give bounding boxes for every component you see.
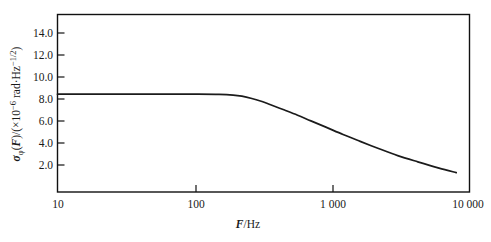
y-tick-label-14: 14.0 xyxy=(33,27,53,39)
y-tick-label-4: 4.0 xyxy=(39,137,54,149)
y-tick-label-8: 8.0 xyxy=(39,93,54,105)
x-axis-ticks xyxy=(196,185,333,192)
chart-page: 14.0 12.0 10.0 8.0 6.0 4.0 2.0 10 100 1 … xyxy=(0,0,491,242)
y-tick-label-10: 10.0 xyxy=(33,71,53,83)
y-axis-title-exp-b: −1/2 xyxy=(8,50,18,66)
y-axis-title: σφ(F)/(×10−6 rad·Hz−1/2) xyxy=(8,46,25,161)
y-axis-title-var: F xyxy=(10,138,22,147)
y-axis-tick-labels: 14.0 12.0 10.0 8.0 6.0 4.0 2.0 xyxy=(33,27,53,171)
phase-noise-chart: 14.0 12.0 10.0 8.0 6.0 4.0 2.0 10 100 1 … xyxy=(0,0,491,242)
data-series-curve xyxy=(58,94,457,173)
y-axis-title-rest-b: rad·Hz xyxy=(10,66,22,101)
svg-text:σφ(F)/(×10−6 rad·Hz−1/2): σφ(F)/(×10−6 rad·Hz−1/2) xyxy=(8,46,25,161)
y-tick-label-12: 12.0 xyxy=(33,49,53,61)
y-tick-label-2: 2.0 xyxy=(39,159,54,171)
x-axis-tick-labels: 10 100 1 000 10 000 xyxy=(52,198,484,210)
x-tick-label-100: 100 xyxy=(187,198,205,210)
y-axis-title-rest-c: ) xyxy=(10,46,23,50)
x-tick-label-1000: 1 000 xyxy=(320,198,346,210)
plot-frame xyxy=(58,15,470,193)
y-tick-label-6: 6.0 xyxy=(39,115,54,127)
y-axis-title-exp-a: −6 xyxy=(8,101,18,110)
x-tick-label-10000: 10 000 xyxy=(452,198,484,210)
x-tick-label-10: 10 xyxy=(52,198,64,210)
y-axis-title-rest-a: )/(×10 xyxy=(10,110,23,139)
x-axis-title-symbol: F xyxy=(235,218,244,230)
x-axis-title: F/Hz xyxy=(235,218,260,230)
y-axis-ticks xyxy=(58,33,65,165)
x-axis-title-unit: /Hz xyxy=(244,218,261,230)
